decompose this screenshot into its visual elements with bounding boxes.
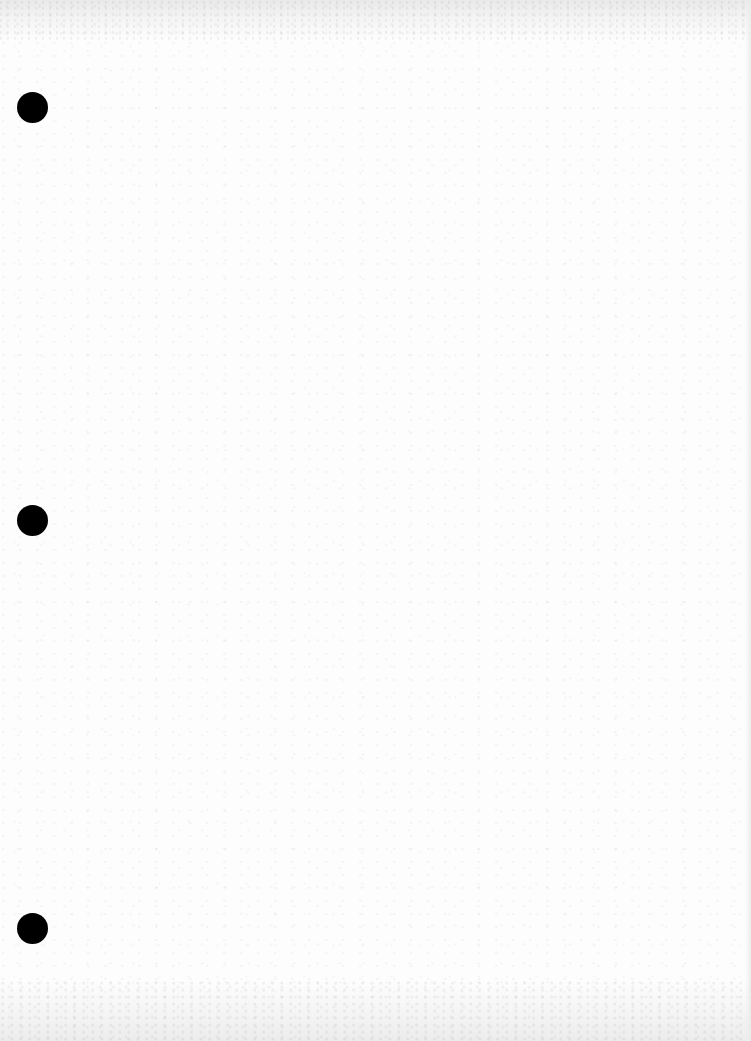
scan-edge-top [0, 0, 751, 40]
scanned-page [0, 0, 751, 1041]
paper-texture [0, 0, 751, 1041]
scan-edge-right [745, 0, 751, 1041]
punch-hole-top [17, 92, 48, 123]
scan-edge-bottom [0, 981, 751, 1041]
punch-hole-bottom [17, 913, 48, 944]
punch-hole-middle [17, 505, 48, 536]
